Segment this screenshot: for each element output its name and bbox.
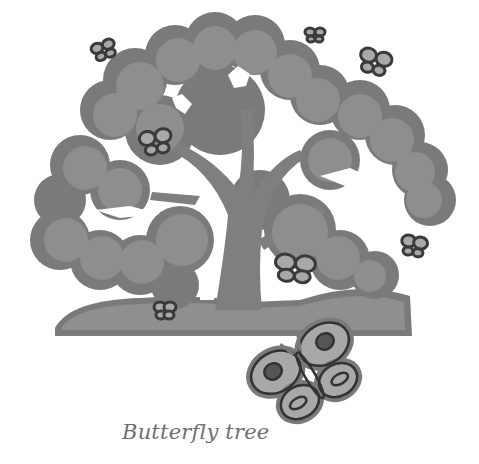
butterfly-tree-illustration [0,0,479,464]
butterfly-icon [305,28,325,42]
butterfly-icon [356,46,393,77]
butterfly-icon [274,253,316,283]
illustration-caption: Butterfly tree [122,420,269,444]
butterfly-icon [154,302,176,319]
butterfly-icon [399,234,428,258]
